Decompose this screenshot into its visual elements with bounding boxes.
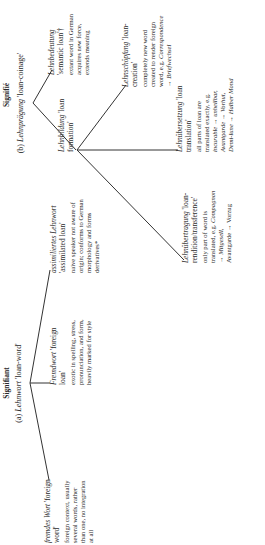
signifie-title: Signifié (2, 83, 11, 107)
lehnwort-term: Lehnwort (14, 381, 23, 412)
leaf-fremdes-wort: fremdes Wort 'foreign word' foreign cont… (44, 477, 95, 543)
lehnuebersetzung-description: all parts of loan are translated exactly… (195, 78, 211, 152)
leaf-assimiliertes-lehnwort: assimiliertes Lehnwort 'assimilated loan… (50, 197, 101, 273)
lehnpraegung-gloss: 'loan-coinage' (16, 53, 25, 97)
assimiliertes-lehnwort-description: naive speaker not aware of origin; confo… (69, 197, 101, 273)
lehnpraegung-root-label: (b) Lehnprägung 'loan-coinage' (16, 53, 25, 154)
assimiliertes-lehnwort-gloss: 'assimilated loan' (58, 223, 67, 274)
leaf-fremdwort: Fremdwort 'foreign loan' exotic in spell… (50, 315, 93, 385)
node-lehnbildung: Lehnbildung 'loan formation' (58, 92, 77, 152)
lehnwort-gloss: 'loan-word' (14, 343, 23, 379)
section-a-prefix: (a) (14, 414, 23, 423)
lehnuebersetzung-example: Avantgarde → Vorhut, (219, 78, 227, 152)
leaf-lehnbedeutung: Lehnbedeutung 'semantic loan'† extant wo… (48, 3, 91, 75)
leaf-lehnuebersetzung: Lehnübersetzung 'loan translation' all p… (176, 78, 235, 152)
fremdes-wort-description: foreign context, usually several words, … (63, 477, 95, 543)
lehnbedeutung-description: extant word in German acquires new force… (67, 3, 91, 75)
lehnuebertragung-example: Avantgarde → Vorzug (225, 185, 233, 263)
lehnuebersetzung-example: incurable → unheilbar, (211, 78, 219, 152)
leaf-lehnuebertragung: Lehnübertragung 'loan-rendition/transfer… (182, 185, 233, 263)
signifiant-title: Signifiant (2, 367, 11, 398)
lehnbedeutung-gloss: 'semantic loan'† (56, 28, 65, 75)
lehnuebersetzung-example: Demi-lune → Halber Mond (227, 78, 235, 152)
fremdwort-description: exotic in spelling, stress, pronunciatio… (69, 315, 93, 385)
section-b-prefix: (b) (16, 144, 25, 153)
lehnpraegung-term: Lehnprägung (16, 99, 25, 142)
loanword-typology-diagram: Signifiant (a) Lehnwort 'loan-word' frem… (0, 0, 265, 545)
leaf-lehnschoepfung: Lehnschöpfung 'loan-creation' completely… (122, 15, 173, 87)
lehnwort-root-label: (a) Lehnwort 'loan-word' (14, 343, 23, 422)
